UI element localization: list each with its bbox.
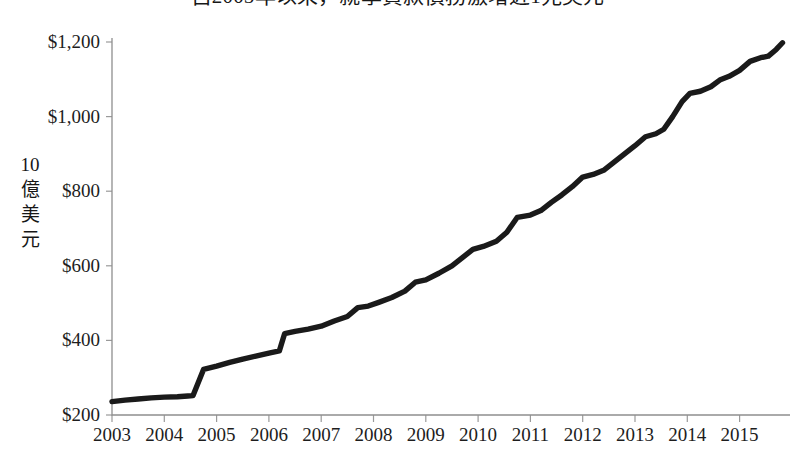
y-tick-label: $1,200: [18, 32, 100, 51]
student-loan-debt-chart: 自2005年以來，就學貸款債務激增近1兆美元 10 億 美 元 $1,200$1…: [0, 0, 795, 456]
x-tick-label: 2011: [502, 424, 558, 446]
y-tick-label: $400: [18, 330, 100, 349]
x-tick-label: 2010: [450, 424, 506, 446]
x-tick-label: 2014: [659, 424, 715, 446]
y-tick-label: $800: [18, 181, 100, 200]
x-tick-label: 2006: [241, 424, 297, 446]
plot-area: [0, 0, 795, 456]
y-tick-label: $600: [18, 256, 100, 275]
y-tick-label: $1,000: [18, 107, 100, 126]
x-tick-label: 2012: [555, 424, 611, 446]
x-tick-label: 2007: [293, 424, 349, 446]
y-tick-label: $200: [18, 405, 100, 424]
tick-marks: [106, 42, 740, 422]
x-tick-label: 2015: [712, 424, 768, 446]
x-tick-label: 2005: [189, 424, 245, 446]
x-tick-label: 2009: [398, 424, 454, 446]
x-tick-label: 2004: [136, 424, 192, 446]
series-line-student-loan-debt: [112, 43, 782, 402]
x-tick-label: 2013: [607, 424, 663, 446]
x-tick-label: 2003: [84, 424, 140, 446]
x-tick-label: 2008: [346, 424, 402, 446]
